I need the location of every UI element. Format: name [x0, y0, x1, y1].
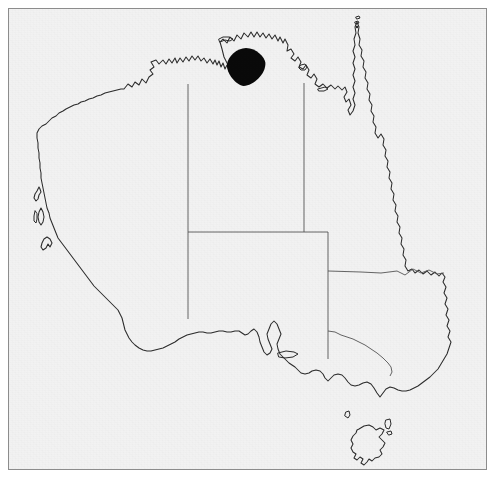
peron-peninsula: [38, 208, 44, 225]
distribution-blob: [227, 48, 265, 86]
australia-map-svg: [8, 8, 487, 470]
cape-barren-island: [387, 431, 392, 435]
melville-island: [219, 37, 233, 42]
nsw-vic-border: [328, 331, 392, 376]
flinders-island: [385, 419, 391, 429]
tasmania-coastline: [351, 425, 385, 465]
exmouth-gulf-detail: [41, 237, 52, 250]
torres-strait-island-1: [356, 16, 360, 19]
map-frame: [8, 8, 487, 470]
dirk-hartog-island: [34, 211, 37, 223]
qld-nsw-border: [328, 269, 444, 275]
king-island: [345, 411, 350, 418]
mornington-island: [318, 87, 328, 91]
map-figure-page: [0, 0, 499, 482]
torres-strait-island-3: [356, 26, 358, 28]
shark-bay-coast-detail: [34, 187, 41, 201]
